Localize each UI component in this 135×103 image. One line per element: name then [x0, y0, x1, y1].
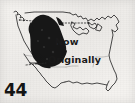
figure-number: 44 — [4, 82, 27, 99]
leader-line-upper-left — [20, 20, 33, 21]
annotation-label-originally: Originally — [48, 55, 101, 65]
annotation-label-now: Now — [55, 37, 79, 47]
figure-44-range-map: Now Originally 44 — [0, 0, 135, 103]
